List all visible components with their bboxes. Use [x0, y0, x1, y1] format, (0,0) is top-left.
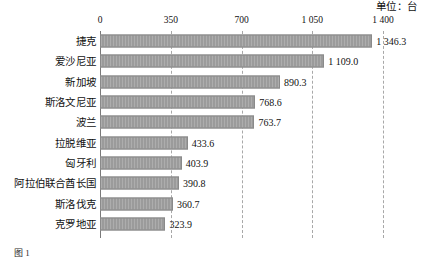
bar — [100, 55, 324, 68]
bar-value-label: 390.8 — [183, 177, 206, 190]
bar-row: 爱沙尼亚1 109.0 — [0, 51, 425, 71]
bar — [100, 156, 182, 169]
category-label: 匈牙利 — [65, 156, 96, 169]
bar — [100, 116, 254, 129]
bar-rows: 捷克1 346.3爱沙尼亚1 109.0新加坡890.3斯洛文尼亚768.6波兰… — [0, 31, 425, 238]
bar-value-label: 360.7 — [177, 197, 200, 210]
bar-value-label: 1 109.0 — [328, 55, 358, 68]
unit-note-label: 单位：台 — [376, 0, 417, 13]
x-tick-label: 1 050 — [302, 14, 323, 27]
bar-value-label: 323.9 — [169, 217, 192, 230]
category-label: 克罗地亚 — [55, 217, 96, 230]
bar-value-label: 768.6 — [259, 96, 282, 109]
bar — [100, 96, 255, 109]
bar-value-label: 433.6 — [192, 136, 215, 149]
bar — [100, 75, 280, 88]
figure-caption: 图 1 — [14, 248, 415, 257]
bar-row: 新加坡890.3 — [0, 72, 425, 92]
category-label: 爱沙尼亚 — [55, 55, 96, 68]
bar — [100, 177, 179, 190]
bar-row: 克罗地亚323.9 — [0, 214, 425, 234]
category-label: 阿拉伯联合酋长国 — [14, 177, 96, 190]
bar-row: 拉脱维亚433.6 — [0, 132, 425, 152]
bar-value-label: 1 346.3 — [376, 35, 406, 48]
bar — [100, 217, 165, 230]
bar-value-label: 763.7 — [258, 116, 281, 129]
bar-value-label: 403.9 — [186, 156, 209, 169]
category-label: 捷克 — [76, 35, 96, 48]
category-label: 斯洛文尼亚 — [45, 96, 96, 109]
category-label: 斯洛伐克 — [55, 197, 96, 210]
category-label: 拉脱维亚 — [55, 136, 96, 149]
category-label: 新加坡 — [65, 75, 96, 88]
bar-row: 阿拉伯联合酋长国390.8 — [0, 173, 425, 193]
bar — [100, 197, 173, 210]
plot-area: 03507001 0501 400 捷克1 346.3爱沙尼亚1 109.0新加… — [0, 14, 425, 244]
x-tick-label: 0 — [98, 14, 103, 27]
bar-value-label: 890.3 — [284, 75, 307, 88]
x-tick-label: 350 — [164, 14, 178, 27]
bar-row: 捷克1 346.3 — [0, 31, 425, 51]
bar-row: 斯洛文尼亚768.6 — [0, 92, 425, 112]
bar — [100, 136, 188, 149]
bar-chart-figure: 单位：台 03507001 0501 400 捷克1 346.3爱沙尼亚1 10… — [0, 0, 425, 257]
category-label: 波兰 — [76, 116, 96, 129]
bar — [100, 35, 372, 48]
x-tick-label: 700 — [234, 14, 248, 27]
x-tick-label: 1 400 — [372, 14, 393, 27]
bar-row: 波兰763.7 — [0, 112, 425, 132]
bar-row: 匈牙利403.9 — [0, 153, 425, 173]
x-axis-tick-labels: 03507001 0501 400 — [0, 14, 425, 29]
bar-row: 斯洛伐克360.7 — [0, 193, 425, 213]
